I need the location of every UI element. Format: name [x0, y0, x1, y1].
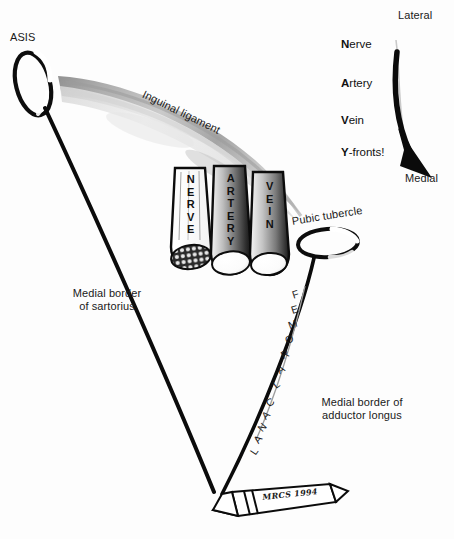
mnemonic-rest-n: erve [349, 38, 371, 50]
mnemonic-item-yfronts: Y-fronts! [341, 146, 384, 158]
label-vein-tube: V E I N [261, 180, 279, 230]
mnemonic-item-artery: Artery [341, 77, 372, 89]
label-medial-border-adductor-longus: Medial border of adductor longus [299, 396, 425, 422]
diagram-canvas: ASIS Inguinal ligament Pubic tubercle Me… [0, 0, 454, 539]
mnemonic-rest-a: rtery [349, 77, 372, 89]
label-asis: ASIS [10, 31, 35, 44]
label-lateral: Lateral [398, 9, 432, 22]
label-medial-border-sartorius: Medial border of sartorius [52, 287, 162, 313]
adductor-longus-border-line [222, 258, 314, 494]
label-medial: Medial [405, 172, 438, 185]
mnemonic-initial-y: Y [341, 146, 349, 158]
mnemonic-initial-v: V [341, 114, 349, 126]
pubic-tubercle-marker [297, 227, 359, 259]
label-artery-tube: A R T E R Y [222, 172, 240, 247]
mnemonic-rest-y: -fronts! [349, 146, 385, 158]
mnemonic-item-vein: Vein [341, 114, 364, 126]
asis-marker [9, 49, 57, 119]
direction-arrow [395, 40, 432, 178]
mnemonic-item-nerve: Nerve [341, 38, 372, 50]
anatomy-illustration [0, 0, 454, 539]
label-nerve-tube: N E R V E [182, 173, 200, 236]
mnemonic-rest-v: ein [349, 114, 364, 126]
